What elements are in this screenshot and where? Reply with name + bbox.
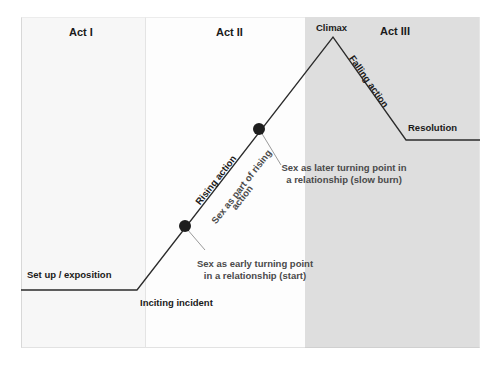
sex-late-note-line2: a relationship (slow burn) bbox=[268, 174, 420, 186]
early-turning-point-marker bbox=[179, 220, 191, 232]
sex-late-note: Sex as later turning point in a relation… bbox=[268, 162, 420, 186]
setup-label: Set up / exposition bbox=[27, 269, 111, 280]
resolution-label: Resolution bbox=[408, 122, 457, 133]
sex-early-note: Sex as early turning point in a relation… bbox=[180, 258, 330, 282]
sex-early-note-line2: in a relationship (start) bbox=[180, 270, 330, 282]
climax-label: Climax bbox=[316, 22, 347, 33]
inciting-incident-label: Inciting incident bbox=[140, 297, 213, 308]
sex-late-note-line1: Sex as later turning point in bbox=[268, 162, 420, 174]
sex-early-note-line1: Sex as early turning point bbox=[180, 258, 330, 270]
early-leader-line bbox=[187, 229, 205, 250]
later-turning-point-marker bbox=[253, 123, 265, 135]
